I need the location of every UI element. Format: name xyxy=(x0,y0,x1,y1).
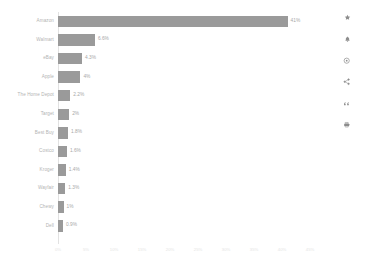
bar-track: 1.3% xyxy=(58,179,322,198)
bar-value-label: 4% xyxy=(83,75,90,80)
bar-value-label: 41% xyxy=(291,19,301,24)
bar-value-label: 4.3% xyxy=(85,56,96,61)
bar[interactable] xyxy=(58,53,82,65)
bar-row: Apple4% xyxy=(0,68,322,87)
bar[interactable] xyxy=(58,146,67,158)
bar-track: 0.9% xyxy=(58,217,322,236)
print-icon[interactable] xyxy=(342,120,353,131)
bar-track: 2% xyxy=(58,105,322,124)
bar-value-label: 1.6% xyxy=(70,149,81,154)
bar[interactable] xyxy=(58,34,95,46)
category-label: The Home Depot xyxy=(0,93,58,98)
category-label: Target xyxy=(0,112,58,117)
x-axis-tick-label: 25% xyxy=(194,248,202,252)
bar-track: 4.3% xyxy=(58,49,322,68)
bar-track: 1.8% xyxy=(58,124,322,143)
bar-value-label: 1% xyxy=(67,205,74,210)
bar-row: Costco1.6% xyxy=(0,142,322,161)
x-axis-tick-label: 10% xyxy=(110,248,118,252)
bar[interactable] xyxy=(58,220,63,232)
bar[interactable] xyxy=(58,127,68,139)
quote-icon[interactable] xyxy=(342,98,353,109)
bar-track: 6.6% xyxy=(58,31,322,50)
x-axis-tick-label: 0% xyxy=(55,248,61,252)
x-axis-tick-label: 30% xyxy=(222,248,230,252)
bar[interactable] xyxy=(58,16,288,28)
bar-row: Best Buy1.8% xyxy=(0,124,322,143)
category-label: Kroger xyxy=(0,168,58,173)
category-label: Wayfair xyxy=(0,186,58,191)
star-icon[interactable] xyxy=(342,12,353,23)
bar-series: Amazon41%Walmart6.6%eBay4.3%Apple4%The H… xyxy=(0,12,322,235)
bar-row: Amazon41% xyxy=(0,12,322,31)
category-label: Walmart xyxy=(0,38,58,43)
bell-icon[interactable] xyxy=(342,34,353,45)
bar-value-label: 1.4% xyxy=(69,168,80,173)
category-label: eBay xyxy=(0,56,58,61)
chart-plot-area: Amazon41%Walmart6.6%eBay4.3%Apple4%The H… xyxy=(0,12,322,244)
bar-row: eBay4.3% xyxy=(0,49,322,68)
category-label: Apple xyxy=(0,75,58,80)
x-axis-tick-label: 35% xyxy=(250,248,258,252)
share-icon[interactable] xyxy=(342,77,353,88)
bar-value-label: 1.3% xyxy=(68,186,79,191)
bar-track: 2.2% xyxy=(58,86,322,105)
x-axis: 0%5%10%15%20%25%30%35%40%45% xyxy=(58,248,310,258)
bar-row: Target2% xyxy=(0,105,322,124)
bar[interactable] xyxy=(58,90,70,102)
category-label: Dell xyxy=(0,224,58,229)
x-axis-tick-label: 20% xyxy=(166,248,174,252)
bar-value-label: 2% xyxy=(72,112,79,117)
gear-icon[interactable] xyxy=(342,55,353,66)
bar-row: The Home Depot2.2% xyxy=(0,86,322,105)
category-label: Costco xyxy=(0,149,58,154)
bar-value-label: 2.2% xyxy=(73,93,84,98)
bar-track: 1.6% xyxy=(58,142,322,161)
bar[interactable] xyxy=(58,164,66,176)
bar-value-label: 1.8% xyxy=(71,130,82,135)
bar-track: 4% xyxy=(58,68,322,87)
bar-track: 41% xyxy=(58,12,322,31)
bar-row: Chewy1% xyxy=(0,198,322,217)
category-label: Best Buy xyxy=(0,131,58,136)
x-axis-tick-label: 5% xyxy=(83,248,89,252)
bar-row: Dell0.9% xyxy=(0,217,322,236)
bar[interactable] xyxy=(58,109,69,121)
bar[interactable] xyxy=(58,201,64,213)
bar[interactable] xyxy=(58,71,80,83)
x-axis-tick-label: 40% xyxy=(278,248,286,252)
x-axis-tick-label: 15% xyxy=(138,248,146,252)
category-label: Amazon xyxy=(0,19,58,24)
x-axis-tick-label: 45% xyxy=(306,248,314,252)
bar-value-label: 6.6% xyxy=(98,37,109,42)
bar-track: 1.4% xyxy=(58,161,322,180)
bar-chart-widget: Amazon41%Walmart6.6%eBay4.3%Apple4%The H… xyxy=(0,0,366,271)
category-label: Chewy xyxy=(0,205,58,210)
bar-row: Kroger1.4% xyxy=(0,161,322,180)
chart-toolbar xyxy=(334,12,360,131)
bar[interactable] xyxy=(58,183,65,195)
bar-value-label: 0.9% xyxy=(66,223,77,228)
bar-row: Wayfair1.3% xyxy=(0,179,322,198)
bar-track: 1% xyxy=(58,198,322,217)
bar-row: Walmart6.6% xyxy=(0,31,322,50)
